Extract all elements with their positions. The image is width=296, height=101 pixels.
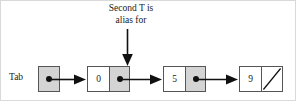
annotation-line-1: Second T is (79, 2, 183, 14)
arrow-five-to-nine-icon (194, 74, 239, 85)
node-nine-data-cell: 9 (240, 67, 261, 91)
node-nine-null-cell (261, 67, 282, 91)
annotation-text: Second T is alias for (79, 2, 183, 26)
tab-pointer-label: Tab (9, 71, 23, 83)
annotation-line-2: alias for (79, 14, 183, 26)
linked-list-diagram: Second T is alias for Tab 0 5 (0, 0, 296, 101)
annotation-down-arrow-icon (121, 29, 134, 67)
node-five-data-cell: 5 (164, 67, 185, 91)
null-pointer-slash-icon (262, 67, 282, 91)
node-zero-data-cell: 0 (88, 67, 109, 91)
node-nine: 9 (239, 66, 283, 92)
arrow-zero-to-five-icon (118, 74, 163, 85)
arrow-tab-to-zero-icon (48, 74, 87, 85)
